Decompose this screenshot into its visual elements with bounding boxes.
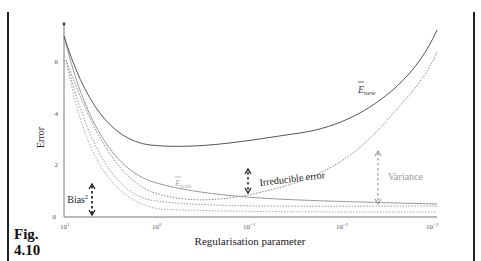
e-train-curve bbox=[64, 36, 437, 204]
e-new-curve bbox=[64, 30, 437, 146]
irreducible-error-label: Irreducible error bbox=[259, 169, 326, 188]
expected-new-error-dotted-curve bbox=[66, 52, 437, 200]
e-train-label: Etrain bbox=[174, 178, 192, 189]
x-tick-10-1: 101 bbox=[60, 222, 70, 231]
chart: 0 2 4 6 101 100 10−1 10−2 10−3 Error Reg… bbox=[0, 0, 481, 261]
y-tick-6: 6 bbox=[55, 58, 59, 66]
x-tick-10-m2: 10−2 bbox=[336, 222, 349, 231]
x-tick-10-m1: 10−1 bbox=[243, 222, 256, 231]
variance-label: Variance bbox=[388, 171, 424, 182]
x-tick-10-m3: 10−3 bbox=[426, 222, 439, 231]
lower-dotted-curve bbox=[66, 60, 437, 212]
x-axis-label: Regularisation parameter bbox=[195, 235, 306, 247]
bias-label: Bias2 bbox=[67, 194, 88, 205]
y-tick-2: 2 bbox=[55, 161, 59, 169]
y-tick-0: 0 bbox=[53, 213, 57, 221]
y-axis-label: Error bbox=[35, 126, 46, 148]
x-tick-10-0: 100 bbox=[152, 222, 162, 231]
irreducible-floor-dotted-curve bbox=[66, 60, 437, 206]
e-new-label: Enew bbox=[357, 84, 377, 97]
y-tick-4: 4 bbox=[55, 110, 59, 118]
